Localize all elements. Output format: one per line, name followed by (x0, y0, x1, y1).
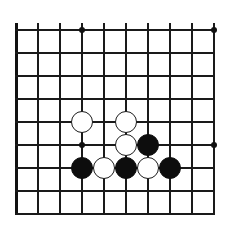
grid-line-horizontal-1 (15, 52, 215, 54)
black-stone-c7r6[interactable] (159, 157, 181, 179)
white-stone-c3r4[interactable] (71, 111, 93, 133)
black-stone-c5r6[interactable] (115, 157, 137, 179)
star-point-2 (79, 142, 85, 148)
star-point-0 (79, 27, 85, 33)
black-stone-c3r6[interactable] (71, 157, 93, 179)
grid-line-horizontal-0 (15, 29, 215, 31)
go-board-figure (0, 0, 227, 238)
star-point-1 (211, 27, 217, 33)
white-stone-c6r6[interactable] (137, 157, 159, 179)
grid-line-horizontal-8 (15, 213, 215, 215)
white-stone-c5r4[interactable] (115, 111, 137, 133)
grid-line-horizontal-7 (15, 190, 215, 192)
white-stone-c5r5[interactable] (115, 134, 137, 156)
grid-line-horizontal-2 (15, 75, 215, 77)
white-stone-c4r6[interactable] (93, 157, 115, 179)
go-board[interactable] (0, 0, 227, 238)
star-point-3 (211, 142, 217, 148)
grid-line-horizontal-3 (15, 98, 215, 100)
black-stone-c6r5[interactable] (137, 134, 159, 156)
